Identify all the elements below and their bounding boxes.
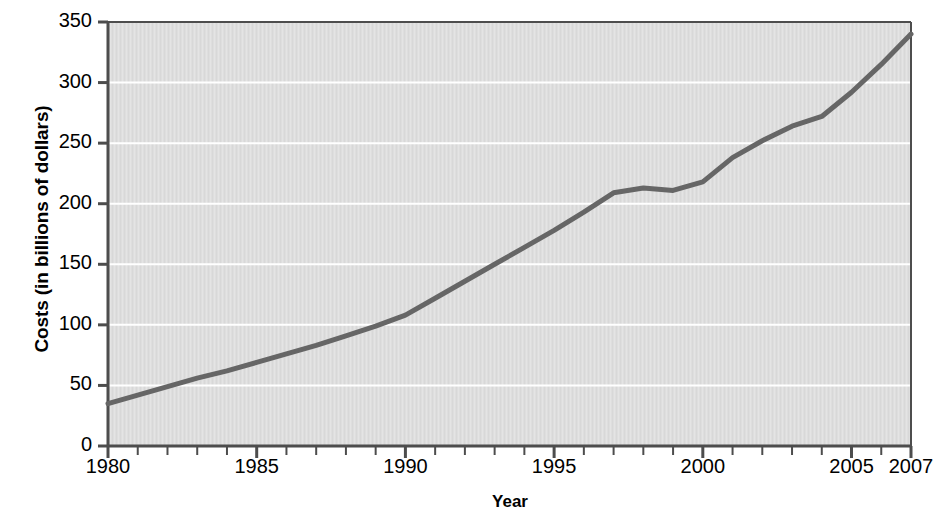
x-tick-label: 1995	[514, 455, 594, 478]
x-tick-label: 2000	[663, 455, 743, 478]
x-tick-label: 2007	[871, 455, 950, 478]
line-chart: 050100150200250300350 198019851990199520…	[0, 0, 950, 531]
x-tick-label: 1985	[217, 455, 297, 478]
x-tick-label: 1990	[365, 455, 445, 478]
chart-plot-area	[0, 0, 950, 531]
y-axis-title: Costs (in billions of dollars)	[31, 0, 53, 459]
plot-background	[108, 22, 911, 446]
x-axis-title: Year	[108, 492, 912, 512]
x-tick-label: 1980	[68, 455, 148, 478]
